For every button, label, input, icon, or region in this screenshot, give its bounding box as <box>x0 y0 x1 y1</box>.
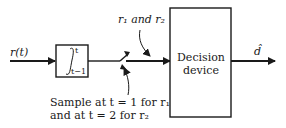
integral-lower-limit: t−1 <box>71 66 86 78</box>
sample-note-line2: and at t = 2 for r₂ <box>50 110 149 122</box>
decision-label-line2: device <box>176 65 226 77</box>
switch-top-label: r₁ and r₂ <box>118 14 165 26</box>
sample-note-line1: Sample at t = 1 for r₁ <box>50 97 170 109</box>
output-label: d̂ <box>254 46 261 58</box>
input-label: r(t) <box>10 47 28 59</box>
decision-label-line1: Decision <box>176 52 226 64</box>
diagram: r(t) t t−1 r₁ and r₂ Sample at t = 1 for… <box>0 0 286 128</box>
integral-upper-limit: t <box>75 45 78 57</box>
